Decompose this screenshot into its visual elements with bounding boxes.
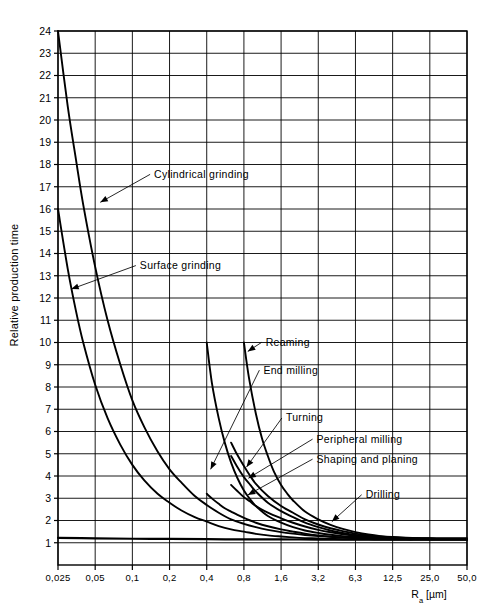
y-axis-ticks: 123456789101112131415161718192021222324 (39, 25, 58, 549)
series-label: Surface grinding (140, 259, 221, 271)
y-tick-label: 3 (45, 492, 51, 504)
series-label: End milling (263, 364, 318, 376)
y-tick-label: 14 (39, 247, 51, 259)
y-tick-label: 8 (45, 381, 51, 393)
y-tick-label: 2 (45, 514, 51, 526)
y-tick-label: 16 (39, 203, 51, 215)
series-label: Peripheral milling (317, 433, 403, 445)
x-tick-label: 50,0 (457, 572, 476, 583)
x-tick-label: 6,3 (349, 572, 363, 583)
x-axis-ticks: 0,0250,050,10,20,40,81,63,26,312,525,050… (46, 565, 477, 583)
y-tick-label: 10 (39, 336, 51, 348)
annotation-cylindrical-grinding: Cylindrical grinding (100, 168, 249, 202)
y-tick-label: 24 (39, 25, 51, 37)
x-tick-label: 0,2 (163, 572, 177, 583)
y-tick-label: 7 (45, 403, 51, 415)
series-label: Cylindrical grinding (154, 168, 249, 180)
series-label: Reaming (266, 336, 310, 348)
y-tick-label: 1 (45, 537, 51, 549)
y-tick-label: 13 (39, 270, 51, 282)
y-tick-label: 12 (39, 292, 51, 304)
series-label: Drilling (366, 488, 401, 500)
y-tick-label: 23 (39, 47, 51, 59)
y-tick-label: 6 (45, 425, 51, 437)
x-tick-label: 0,05 (86, 572, 105, 583)
svg-text:Ra [µm]: Ra [µm] (411, 588, 446, 605)
series-label: Turning (286, 411, 323, 423)
y-tick-label: 22 (39, 69, 51, 81)
annotation-reaming: Reaming (248, 336, 310, 352)
y-tick-label: 11 (40, 314, 51, 326)
x-tick-label: 1,6 (274, 572, 288, 583)
x-tick-label: 0,1 (125, 572, 139, 583)
x-tick-label: 25,0 (420, 572, 439, 583)
y-tick-label: 21 (39, 92, 51, 104)
annotation-drilling: Drilling (332, 488, 400, 521)
y-tick-label: 9 (45, 359, 51, 371)
x-tick-label: 3,2 (311, 572, 325, 583)
y-tick-label: 4 (45, 470, 51, 482)
production-time-chart: 1234567891011121314151617181920212223240… (0, 0, 496, 605)
x-axis-title: Ra [µm] (411, 588, 446, 605)
chart-figure: 1234567891011121314151617181920212223240… (0, 0, 496, 605)
grid-lines (58, 31, 467, 565)
x-tick-label: 0,8 (237, 572, 251, 583)
y-tick-label: 5 (45, 448, 51, 460)
x-tick-label: 0,025 (46, 572, 71, 583)
x-tick-label: 12,5 (383, 572, 402, 583)
y-tick-label: 17 (39, 181, 51, 193)
x-tick-label: 0,4 (200, 572, 214, 583)
y-tick-label: 18 (39, 158, 51, 170)
y-tick-label: 15 (39, 225, 51, 237)
series-label: Shaping and planing (317, 453, 418, 465)
y-tick-label: 20 (39, 114, 51, 126)
y-tick-label: 19 (39, 136, 51, 148)
